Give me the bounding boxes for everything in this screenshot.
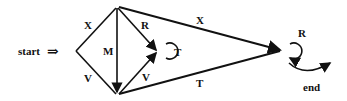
label-bottom-left: V: [84, 72, 92, 84]
label-top-right: R: [141, 19, 150, 31]
end-arrow-icon: [289, 63, 330, 71]
label-middle-loop: T: [174, 46, 182, 58]
edge-bottom-left: [76, 51, 116, 94]
edge-top-right: [118, 8, 156, 50]
edge-bottom-right: [119, 53, 156, 94]
state-diagram: start ⇒ X V M R V X T T R end: [0, 0, 347, 101]
end-label: end: [303, 81, 320, 93]
start-arrow-icon: ⇒: [47, 44, 59, 59]
label-top-left: X: [84, 19, 92, 31]
label-bottom-right: V: [142, 71, 150, 83]
label-lower-long: T: [196, 77, 204, 89]
label-final-loop: R: [298, 27, 307, 39]
start-label: start: [18, 45, 40, 57]
label-upper-long: X: [196, 14, 204, 26]
final-loop-icon: [290, 43, 302, 59]
label-middle: M: [103, 45, 114, 57]
